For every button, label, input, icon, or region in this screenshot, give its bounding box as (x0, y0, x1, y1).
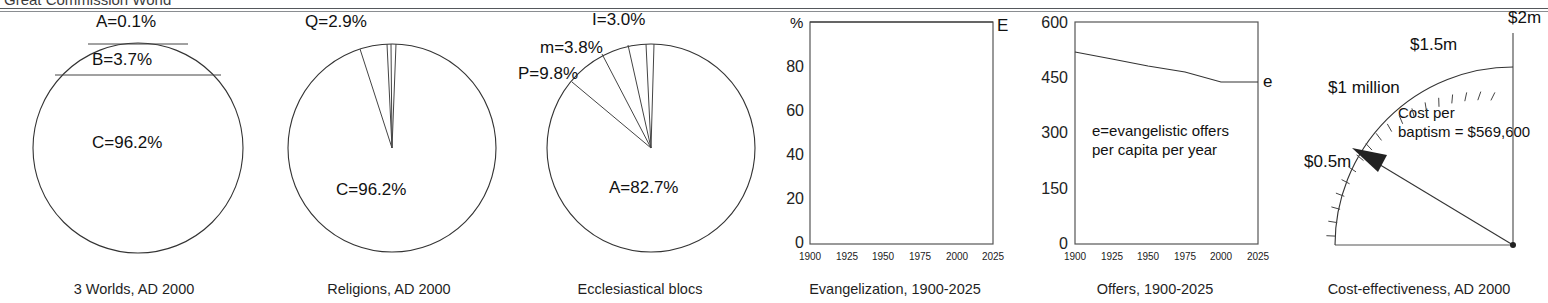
panel-offers: e e=evangelistic offers per capita per y… (1020, 0, 1290, 303)
svg-text:450: 450 (1041, 69, 1068, 86)
svg-text:1900: 1900 (799, 251, 822, 262)
gauge-cost-effectiveness (1290, 0, 1548, 270)
svg-text:1900: 1900 (1064, 251, 1087, 262)
svg-text:1925: 1925 (836, 251, 859, 262)
svg-text:1925: 1925 (1101, 251, 1124, 262)
svg-text:2000: 2000 (1210, 251, 1233, 262)
svg-text:2025: 2025 (982, 251, 1005, 262)
svg-text:80: 80 (786, 58, 804, 75)
caption-offers: Offers, 1900-2025 (1020, 281, 1290, 297)
svg-text:0: 0 (795, 234, 804, 251)
svg-text:300: 300 (1041, 124, 1068, 141)
svg-text:60: 60 (786, 102, 804, 119)
panel-religions: Q=2.9% C=96.2% Religions, AD 2000 (268, 0, 510, 303)
panel-evangelization: % E 80 60 40 20 0 1900 1925 1950 1975 20… (770, 0, 1020, 303)
svg-text:40: 40 (786, 146, 804, 163)
svg-text:2025: 2025 (1247, 251, 1270, 262)
pie-religions (268, 0, 510, 270)
svg-text:600: 600 (1041, 14, 1068, 31)
svg-text:0: 0 (1059, 235, 1068, 252)
pie-ecclesiastical-blocs (510, 0, 770, 270)
chart-evangelization: 80 60 40 20 0 1900 1925 1950 1975 2000 2… (770, 0, 1020, 270)
pie-three-worlds (0, 0, 268, 270)
svg-text:1950: 1950 (872, 251, 895, 262)
caption-ecclesiastical-blocs: Ecclesiastical blocs (510, 281, 770, 297)
svg-text:2000: 2000 (946, 251, 969, 262)
svg-text:1975: 1975 (909, 251, 932, 262)
caption-evangelization: Evangelization, 1900-2025 (770, 281, 1020, 297)
figure-row: Great Commission World A=0.1% B=3.7% C=9… (0, 0, 1548, 303)
panel-cost-effectiveness: $0.5m $1 million $1.5m $2m Cost per bapt… (1290, 0, 1548, 303)
chart-offers: 600 450 300 150 0 1900 1925 1950 1975 20… (1020, 0, 1290, 270)
caption-religions: Religions, AD 2000 (268, 281, 510, 297)
panel-ecclesiastical-blocs: I=3.0% m=3.8% P=9.8% A=82.7% Ecclesiasti… (510, 0, 770, 303)
caption-cost-effectiveness: Cost-effectiveness, AD 2000 (1290, 281, 1548, 297)
caption-three-worlds: 3 Worlds, AD 2000 (0, 281, 268, 297)
svg-text:20: 20 (786, 190, 804, 207)
svg-text:150: 150 (1041, 180, 1068, 197)
panel-three-worlds: A=0.1% B=3.7% C=96.2% 3 Worlds, AD 2000 (0, 0, 268, 303)
svg-text:1950: 1950 (1137, 251, 1160, 262)
svg-text:1975: 1975 (1174, 251, 1197, 262)
